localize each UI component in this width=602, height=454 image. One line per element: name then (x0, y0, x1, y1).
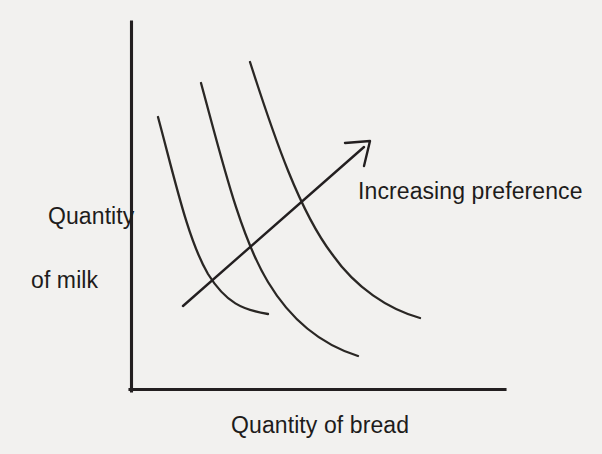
increasing-preference-label: Increasing preference (358, 175, 583, 207)
y-axis-label-line-2: of milk (22, 264, 134, 296)
x-axis-label: Quantity of bread (231, 409, 409, 441)
indifference-curve-2 (201, 83, 358, 356)
y-axis-label-line-1: Quantity (48, 203, 134, 229)
y-axis-label: Quantity of milk (22, 168, 134, 360)
indifference-curve-figure: Quantity of milk Quantity of bread Incre… (0, 0, 602, 454)
increasing-preference-arrow-shaft (183, 147, 364, 306)
indifference-curve-1 (158, 117, 268, 314)
